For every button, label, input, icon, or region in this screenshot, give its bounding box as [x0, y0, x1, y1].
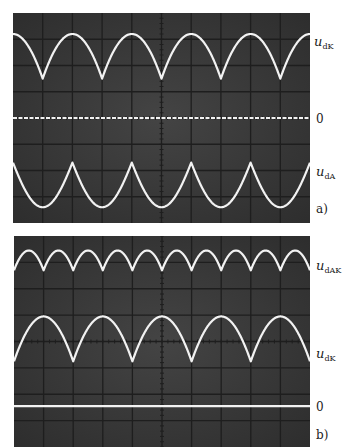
trace-label-b-1: udK — [316, 348, 335, 365]
oscillogram-panel-a — [13, 13, 310, 223]
panel-label-b: b) — [316, 428, 328, 442]
trace-label-a-1: 0 — [316, 113, 324, 125]
trace-label-b-0: udAK — [316, 260, 341, 277]
trace-label-b-2: 0 — [316, 401, 324, 413]
trace-label-a-0: udK — [314, 36, 333, 53]
oscillogram-a-plot — [13, 13, 310, 223]
trace-label-a-2: udA — [316, 166, 335, 183]
oscillogram-panel-b — [14, 236, 310, 447]
panel-label-a: a) — [316, 202, 328, 216]
oscillogram-b-plot — [14, 236, 310, 447]
